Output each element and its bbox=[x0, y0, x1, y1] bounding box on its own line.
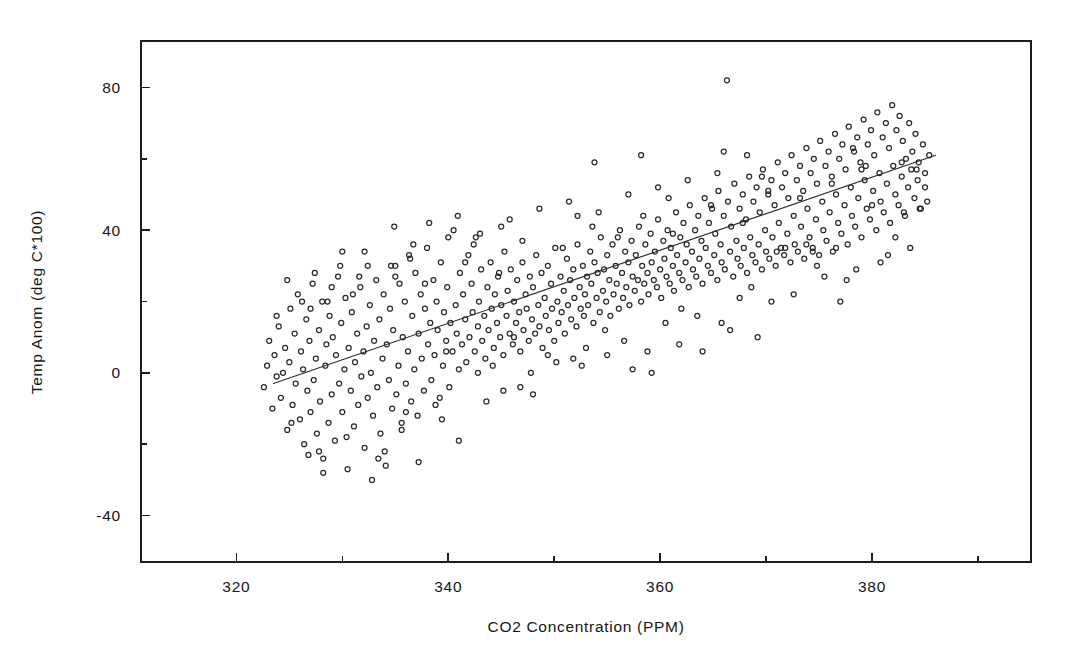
y-axis-title: Temp Anom (deg C*100) bbox=[28, 210, 45, 394]
x-axis-title: CO2 Concentration (PPM) bbox=[488, 618, 685, 635]
plot-canvas: 320340360380 -4004080 CO2 Concentration … bbox=[0, 0, 1082, 662]
x-tick-label: 380 bbox=[858, 578, 886, 595]
x-tick-label: 360 bbox=[646, 578, 674, 595]
x-tick-label: 320 bbox=[222, 578, 250, 595]
y-tick-label: 40 bbox=[102, 222, 121, 239]
y-tick-label: 80 bbox=[102, 79, 121, 96]
scatter-plot-figure: 320340360380 -4004080 CO2 Concentration … bbox=[0, 0, 1082, 662]
x-tick-label: 340 bbox=[434, 578, 462, 595]
y-tick-label: 0 bbox=[112, 364, 121, 381]
y-tick-label: -40 bbox=[96, 507, 121, 524]
